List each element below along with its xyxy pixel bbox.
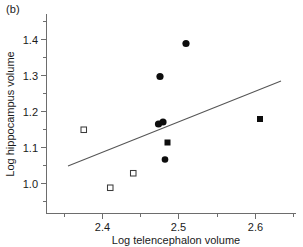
x-tick-label: 2.5 [171,221,186,233]
x-tick-label: 2.6 [248,221,263,233]
filled-circle-series [155,40,190,163]
y-tick-label: 1.1 [23,142,38,154]
y-tick-label: 1.0 [23,178,38,190]
x-axis-title: Log telencephalon volume [112,234,240,246]
regression-line [68,81,281,166]
data-point-open-square [131,171,137,177]
x-tick-label: 2.4 [95,221,110,233]
data-point-open-square [108,185,114,191]
data-point-open-square [81,127,87,133]
data-point-filled-circle [162,156,169,163]
scatter-plot: 1.4 1.3 1.2 1.1 1.0 2.4 2.5 2.6 Log tele… [0,0,303,247]
x-axis-major-ticks [103,214,256,220]
chart-figure: (b) [0,0,303,247]
filled-square-series [165,116,264,146]
data-point-filled-circle [156,73,163,80]
y-axis-major-ticks [41,40,47,184]
data-point-filled-circle [182,40,189,47]
y-tick-label: 1.4 [23,34,38,46]
y-axis-title: Log hippocampus volume [4,51,16,176]
open-square-series [81,127,136,191]
data-point-filled-square [165,140,171,146]
data-point-filled-square [257,116,263,122]
y-tick-label: 1.2 [23,106,38,118]
data-point-filled-circle [159,118,166,125]
y-tick-label: 1.3 [23,70,38,82]
